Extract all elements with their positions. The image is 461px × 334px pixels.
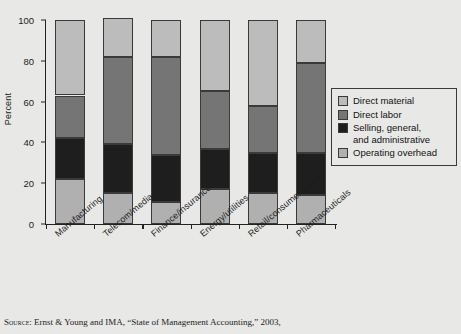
bar-segment[interactable] xyxy=(248,153,278,194)
bar-segment[interactable] xyxy=(248,106,278,153)
legend-item[interactable]: Direct material xyxy=(338,95,451,107)
bar-segment[interactable] xyxy=(103,144,133,193)
bar-segment[interactable] xyxy=(55,96,85,139)
legend-swatch-icon xyxy=(338,148,348,158)
x-tick-mark xyxy=(287,224,288,229)
bar-telecom-media[interactable] xyxy=(103,20,133,224)
source-prefix: Source xyxy=(4,317,29,327)
bar-retail-consumer-goods[interactable] xyxy=(248,20,278,224)
stacked-bar-chart-figure: Percent 020406080100 ManufacturingTeleco… xyxy=(0,0,461,334)
legend-label: Direct material xyxy=(353,95,414,107)
y-tick-label: 100 xyxy=(8,15,34,26)
x-tick-mark xyxy=(335,224,336,229)
source-text: : Ernst & Young and IMA, “State of Manag… xyxy=(29,317,280,327)
bar-segment[interactable] xyxy=(103,18,133,57)
y-tick-label: 20 xyxy=(8,178,34,189)
y-tick-label: 60 xyxy=(8,96,34,107)
bar-segment[interactable] xyxy=(200,20,230,91)
bar-segment[interactable] xyxy=(151,20,181,57)
x-tick-mark xyxy=(94,224,95,229)
legend-label-line2: and administrative xyxy=(353,134,430,146)
y-tick-label: 0 xyxy=(8,219,34,230)
legend-item[interactable]: Selling, general,and administrative xyxy=(338,122,451,145)
bar-finance-insurance[interactable] xyxy=(151,20,181,224)
x-tick-mark xyxy=(142,224,143,229)
bar-segment[interactable] xyxy=(103,57,133,145)
legend-label: Selling, general,and administrative xyxy=(353,122,430,145)
x-tick-mark xyxy=(239,224,240,229)
bar-segment[interactable] xyxy=(296,63,326,153)
bar-segment[interactable] xyxy=(151,57,181,155)
x-tick-mark xyxy=(46,224,47,229)
bar-segment[interactable] xyxy=(55,138,85,179)
bar-manufacturing[interactable] xyxy=(55,20,85,224)
y-axis-label: Percent xyxy=(3,79,13,139)
bar-segment[interactable] xyxy=(151,155,181,202)
y-tick-label: 80 xyxy=(8,55,34,66)
legend-label: Operating overhead xyxy=(353,147,437,159)
legend-item[interactable]: Operating overhead xyxy=(338,147,451,159)
legend-swatch-icon xyxy=(338,123,348,133)
chart-legend: Direct materialDirect laborSelling, gene… xyxy=(331,88,457,166)
legend-item[interactable]: Direct labor xyxy=(338,109,451,121)
y-axis-line xyxy=(45,20,46,224)
legend-label: Direct labor xyxy=(353,109,402,121)
bar-segment[interactable] xyxy=(248,20,278,106)
legend-swatch-icon xyxy=(338,110,348,120)
legend-swatch-icon xyxy=(338,96,348,106)
y-tick-label: 40 xyxy=(8,137,34,148)
bar-segment[interactable] xyxy=(200,91,230,148)
source-note: Source: Ernst & Young and IMA, “State of… xyxy=(4,317,281,327)
bar-segment[interactable] xyxy=(296,20,326,63)
bar-segment[interactable] xyxy=(55,20,85,95)
x-tick-mark xyxy=(191,224,192,229)
